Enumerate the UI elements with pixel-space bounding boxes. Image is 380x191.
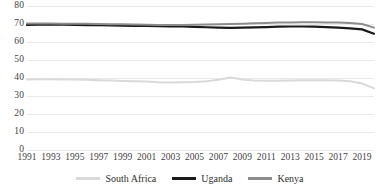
y-axis-tick-labels: 01020304050607080: [0, 6, 24, 150]
legend-label: Uganda: [201, 173, 232, 184]
x-axis-tick-label: 2005: [185, 152, 204, 163]
y-axis-tick-label: 40: [0, 73, 24, 83]
plot-area: [27, 6, 374, 150]
y-axis-tick-label: 20: [0, 109, 24, 119]
x-axis-tick-labels: 1991199319951997199920012003200520072009…: [27, 152, 374, 166]
y-axis-tick-label: 10: [0, 127, 24, 137]
legend-label: South Africa: [105, 173, 156, 184]
y-axis-tick-label: 30: [0, 91, 24, 101]
legend-swatch-icon: [248, 177, 272, 180]
x-axis-tick-label: 2017: [328, 152, 347, 163]
x-axis-tick-label: 2009: [233, 152, 252, 163]
x-axis-tick-label: 1999: [113, 152, 132, 163]
y-axis-tick-label: 80: [0, 1, 24, 11]
x-axis-tick-label: 2007: [209, 152, 228, 163]
series-lines: [27, 22, 374, 88]
x-axis-tick-label: 1995: [65, 152, 84, 163]
x-axis-tick-label: 1991: [17, 152, 36, 163]
x-axis-tick-label: 1993: [41, 152, 60, 163]
x-axis-tick-label: 2001: [137, 152, 156, 163]
plot-svg: [27, 6, 374, 150]
x-axis-tick-label: 2013: [281, 152, 300, 163]
x-axis-tick-label: 1997: [89, 152, 108, 163]
legend-item[interactable]: Kenya: [248, 173, 303, 184]
chart-legend: South AfricaUgandaKenya: [0, 170, 380, 186]
series-line-uganda: [27, 25, 374, 34]
series-line-south-africa: [27, 77, 374, 88]
legend-swatch-icon: [76, 177, 100, 180]
x-axis-tick-label: 2019: [352, 152, 371, 163]
legend-label: Kenya: [277, 173, 303, 184]
x-axis-tick-label: 2011: [257, 152, 276, 163]
legend-item[interactable]: South Africa: [76, 173, 156, 184]
y-axis-tick-label: 50: [0, 55, 24, 65]
y-axis-tick-label: 70: [0, 19, 24, 29]
legend-swatch-icon: [172, 177, 196, 180]
y-axis-tick-label: 60: [0, 37, 24, 47]
x-axis-tick-label: 2015: [305, 152, 324, 163]
line-chart: 01020304050607080 1991199319951997199920…: [0, 0, 380, 191]
legend-item[interactable]: Uganda: [172, 173, 232, 184]
x-axis-tick-label: 2003: [161, 152, 180, 163]
